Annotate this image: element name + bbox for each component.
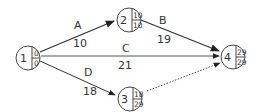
- edge-c-duration: 21: [118, 59, 132, 72]
- edge-a: A 10: [40, 19, 114, 52]
- node-2: 2 10 10: [117, 8, 143, 32]
- edge-c-label: C: [122, 42, 130, 55]
- node-2-late: 10: [133, 21, 143, 30]
- node-4-late: 29: [237, 58, 247, 67]
- node-1-early: 0: [34, 49, 39, 58]
- node-3: 3 18 29: [118, 87, 144, 111]
- node-2-early: 10: [133, 11, 143, 20]
- node-2-id: 2: [120, 14, 127, 27]
- node-3-early: 18: [134, 90, 144, 99]
- node-1-late: 0: [34, 59, 39, 68]
- network-diagram: A 10 B 19 C 21 D 18 1 0 0 2 10 10: [0, 0, 256, 112]
- edge-a-duration: 10: [73, 37, 87, 50]
- node-3-id: 3: [121, 93, 128, 106]
- node-1-id: 1: [20, 52, 27, 65]
- edge-c: C 21: [41, 42, 219, 72]
- edge-dummy: [147, 63, 220, 91]
- edge-a-label: A: [74, 19, 82, 32]
- edge-d-duration: 18: [83, 85, 97, 98]
- node-1: 1 0 0: [16, 46, 40, 70]
- node-3-late: 29: [134, 100, 144, 109]
- node-4: 4 29 29: [221, 45, 247, 69]
- node-4-early: 29: [237, 48, 247, 57]
- node-4-id: 4: [224, 51, 231, 64]
- edge-d: D 18: [40, 61, 115, 98]
- edge-b-label: B: [159, 14, 167, 27]
- edge-b: B 19: [141, 14, 219, 51]
- edge-d-label: D: [84, 66, 92, 79]
- edge-b-duration: 19: [157, 33, 171, 46]
